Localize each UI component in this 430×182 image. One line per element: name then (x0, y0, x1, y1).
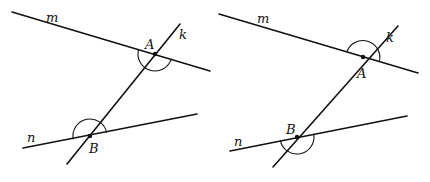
figure-left: m k A n B (12, 10, 210, 164)
figure-right: m k A n B (219, 11, 418, 167)
line-n (230, 116, 407, 151)
diagram-canvas: m k A n B m k A n B (0, 0, 430, 182)
label-k: k (179, 27, 187, 42)
label-a: A (144, 37, 154, 52)
point-a (153, 52, 157, 56)
label-n: n (234, 134, 242, 149)
label-m: m (257, 11, 269, 26)
label-m: m (46, 10, 58, 25)
label-b: B (285, 122, 296, 137)
point-a (361, 55, 365, 59)
label-b: B (88, 141, 99, 156)
point-b (88, 134, 92, 138)
line-n (23, 114, 197, 148)
line-k (273, 26, 398, 167)
label-k: k (386, 30, 394, 45)
label-n: n (27, 130, 35, 145)
label-a: A (356, 66, 366, 81)
